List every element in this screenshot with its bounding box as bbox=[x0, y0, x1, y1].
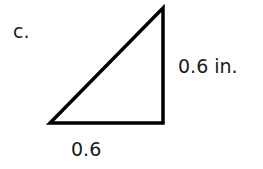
vertical-side-label: 0.6 in. bbox=[178, 57, 238, 76]
bottom-side-label: 0.6 bbox=[71, 140, 101, 159]
triangle-outline bbox=[50, 8, 163, 123]
figure-c: c. 0.6 in. 0.6 bbox=[0, 0, 263, 169]
right-triangle-shape bbox=[0, 0, 263, 169]
